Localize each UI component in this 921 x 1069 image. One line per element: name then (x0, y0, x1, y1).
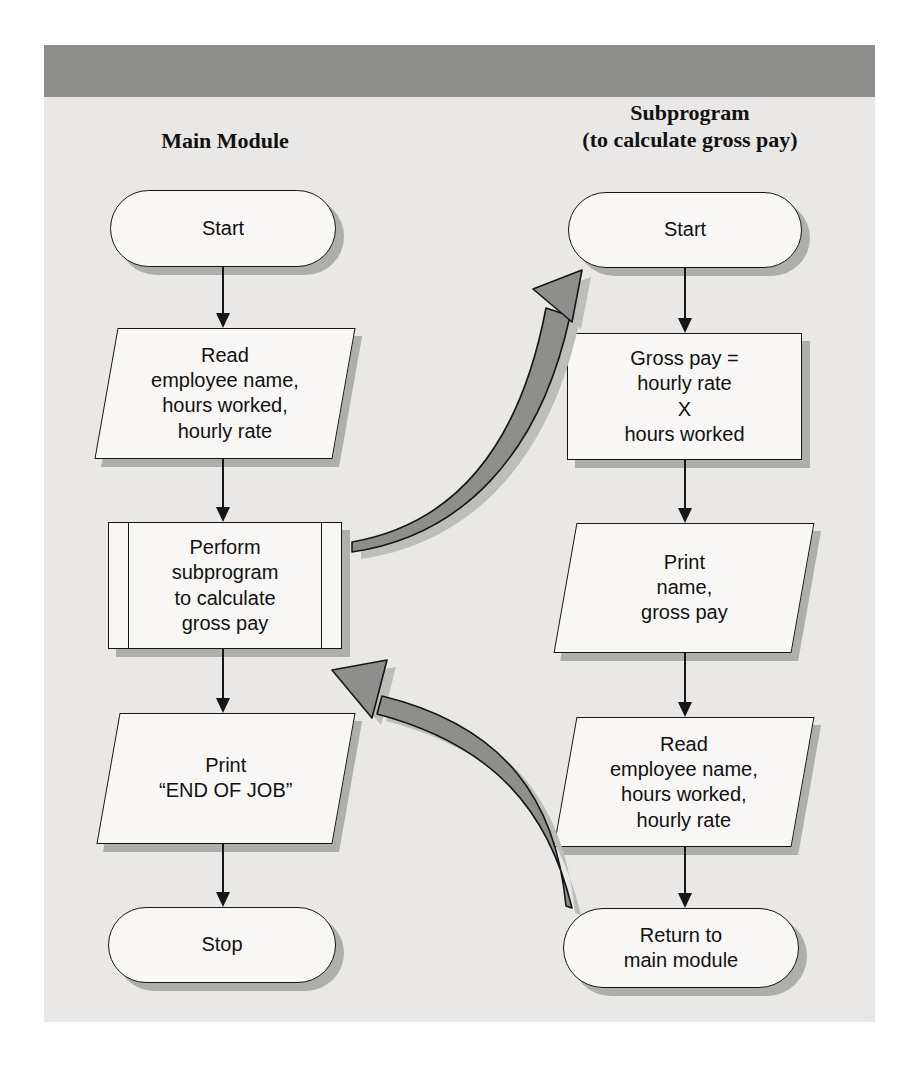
subprogram-return-terminator: Return to main module (563, 908, 799, 988)
node-label: Start (202, 216, 244, 241)
main-read-input: Read employee name, hours worked, hourly… (94, 328, 355, 459)
node-label: Stop (201, 932, 242, 957)
node-label: Print “END OF JOB” (159, 753, 292, 803)
arrow-head-icon (216, 507, 230, 522)
main-start-terminator: Start (110, 190, 336, 267)
subprogram-title: Subprogram (to calculate gross pay) (520, 100, 860, 154)
figure: Main Module Subprogram (to calculate gro… (0, 0, 921, 1069)
predefined-process-right-bar (321, 523, 322, 648)
arrow-stem (684, 847, 686, 895)
arrow-head-icon (216, 698, 230, 713)
main-print-end-of-job-output: Print “END OF JOB” (96, 713, 355, 844)
subprogram-start-terminator: Start (568, 192, 802, 268)
arrow-head-icon (216, 313, 230, 328)
subprogram-gross-pay-process: Gross pay = hourly rate X hours worked (567, 333, 802, 460)
node-label: Return to main module (624, 923, 739, 973)
arrow-head-icon (678, 508, 692, 523)
arrow-stem (222, 649, 224, 700)
node-label: Read employee name, hours worked, hourly… (610, 732, 758, 833)
subprogram-print-output: Print name, gross pay (554, 523, 815, 653)
main-perform-subprogram-predefined-process: Perform subprogram to calculate gross pa… (108, 522, 342, 649)
arrow-head-icon (678, 318, 692, 333)
arrow-stem (222, 459, 224, 509)
arrow-head-icon (678, 702, 692, 717)
flow-arrow (216, 844, 230, 907)
flow-arrow (678, 653, 692, 717)
predefined-process-left-bar (128, 523, 129, 648)
panel-header-bar (44, 45, 875, 97)
arrow-stem (684, 653, 686, 704)
node-label: Print name, gross pay (641, 550, 728, 626)
node-label: Start (664, 217, 706, 242)
flow-arrow (678, 460, 692, 523)
flow-arrow (216, 267, 230, 328)
main-module-title: Main Module (75, 128, 375, 155)
arrow-head-icon (678, 893, 692, 908)
main-stop-terminator: Stop (108, 907, 336, 983)
flow-arrow (678, 847, 692, 908)
arrow-stem (684, 268, 686, 320)
node-label: Gross pay = hourly rate X hours worked (624, 346, 744, 447)
node-label: Read employee name, hours worked, hourly… (151, 343, 299, 444)
flow-arrow (216, 459, 230, 522)
arrow-stem (222, 267, 224, 315)
flow-arrow (216, 649, 230, 713)
node-label: Perform subprogram to calculate gross pa… (172, 535, 279, 636)
arrow-stem (222, 844, 224, 894)
arrow-stem (684, 460, 686, 510)
flow-arrow (678, 268, 692, 333)
arrow-head-icon (216, 892, 230, 907)
subprogram-read-input: Read employee name, hours worked, hourly… (554, 717, 815, 847)
